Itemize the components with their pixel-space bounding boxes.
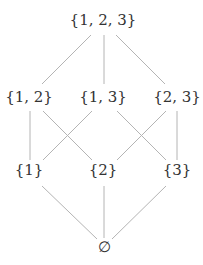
- node-empty-set: ∅: [98, 238, 111, 256]
- node-set-1-2: {1, 2}: [5, 88, 53, 106]
- node-set-3: {3}: [163, 161, 192, 179]
- node-set-1-3: {1, 3}: [79, 88, 127, 106]
- edge-n123-n12: [42, 35, 91, 84]
- edge-n1-n0: [42, 186, 97, 239]
- edge-n3-n0: [112, 186, 166, 239]
- node-set-1-2-3: {1, 2, 3}: [70, 11, 137, 29]
- node-set-1: {1}: [15, 161, 44, 179]
- node-set-2-3: {2, 3}: [153, 88, 201, 106]
- edges-group: [30, 35, 177, 239]
- hasse-diagram: {1, 2, 3} {1, 2} {1, 3} {2, 3} {1} {2} {…: [0, 0, 203, 265]
- edge-n123-n23: [116, 35, 165, 84]
- nodes-group: {1, 2, 3} {1, 2} {1, 3} {2, 3} {1} {2} {…: [5, 11, 201, 256]
- node-set-2: {2}: [89, 161, 118, 179]
